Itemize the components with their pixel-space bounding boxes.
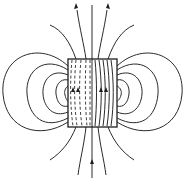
interior-dashed-line [71, 60, 73, 126]
interior-dashed-line [80, 60, 82, 126]
arrow-top-left-icon [74, 3, 78, 9]
arrow-right-inside-1-icon [99, 87, 103, 92]
magnetic-field-diagram [0, 0, 185, 182]
interior-solid-line [99, 60, 101, 126]
field-line [50, 127, 76, 160]
arrow-bottom-center-icon [90, 159, 94, 164]
arrow-right-inside-2-icon [104, 87, 108, 92]
field-loop [117, 80, 129, 107]
arrow-top-right-icon [106, 3, 110, 9]
field-line [98, 127, 106, 175]
field-line [108, 25, 134, 59]
interior-solid-line [111, 60, 113, 126]
interior-dashed-lines [71, 60, 90, 126]
interior-solid-line [95, 60, 97, 126]
field-line [108, 127, 134, 160]
field-loop [56, 80, 68, 107]
interior-dashed-line [85, 60, 87, 126]
interior-dashed-line [75, 60, 77, 126]
left-field-loops [3, 53, 68, 131]
field-line [98, 10, 107, 59]
interior-solid-lines [95, 60, 113, 126]
interior-solid-line [107, 60, 109, 126]
field-line [50, 25, 76, 59]
field-line [77, 10, 86, 59]
field-loop [117, 86, 121, 101]
interior-solid-line [103, 60, 105, 126]
field-line [78, 127, 86, 175]
right-field-loops [117, 53, 182, 131]
